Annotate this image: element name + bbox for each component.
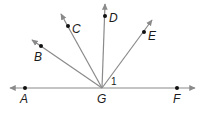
label-f: F (173, 92, 181, 106)
point-e (142, 30, 146, 34)
label-g: G (97, 92, 106, 106)
label-b: B (34, 50, 42, 64)
label-d: D (109, 11, 118, 25)
label-c: C (72, 22, 81, 36)
angle-1-label: 1 (111, 76, 117, 87)
point-b (39, 44, 43, 48)
label-e: E (148, 29, 157, 43)
point-c (66, 24, 70, 28)
geometry-diagram: A G F B C D E 1 (0, 0, 206, 113)
point-d (103, 14, 107, 18)
label-a: A (19, 92, 28, 106)
point-f (175, 86, 179, 90)
point-a (23, 86, 27, 90)
